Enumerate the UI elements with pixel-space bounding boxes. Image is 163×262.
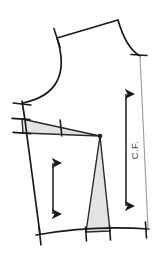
center-front-label: C.F. (129, 141, 140, 160)
hem-dart-left-notch (86, 227, 87, 241)
hem-dart-right-notch (110, 226, 111, 240)
neckline-notch (131, 54, 147, 55)
bust-apex-point (98, 134, 102, 138)
hem-center-front-notch (145, 222, 146, 238)
pattern-drawing-canvas: C.F. (0, 0, 163, 262)
pattern-figure: C.F. (0, 0, 163, 262)
